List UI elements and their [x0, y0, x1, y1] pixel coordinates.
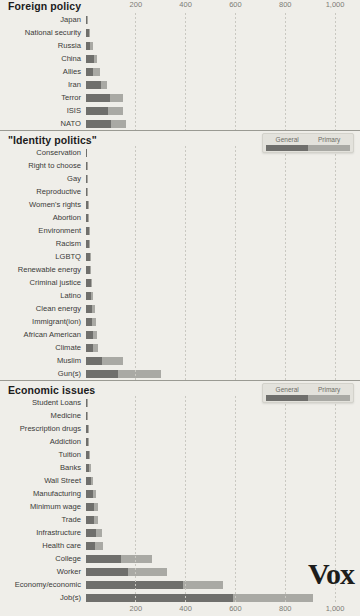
bar-category-label: Muslim	[0, 357, 86, 365]
stacked-bar[interactable]	[86, 490, 96, 498]
stacked-bar[interactable]	[86, 331, 97, 339]
chart-row: China	[0, 52, 360, 65]
stacked-bar[interactable]	[86, 318, 96, 326]
axis-bottom: 2004006008001,000	[86, 604, 360, 616]
bar-category-label: China	[0, 55, 86, 63]
bar-category-label: Latino	[0, 292, 86, 300]
stacked-bar[interactable]	[86, 266, 91, 274]
stacked-bar[interactable]	[86, 162, 87, 170]
stacked-bar[interactable]	[86, 81, 107, 89]
stacked-bar[interactable]	[86, 188, 88, 196]
bar-segment-primary	[94, 503, 98, 511]
stacked-bar[interactable]	[86, 451, 90, 459]
axis-top: 2004006008001,000	[86, 0, 360, 13]
bar-category-label: Economy/economic	[0, 581, 86, 589]
bar-category-label: Japan	[0, 16, 86, 24]
bar-category-label: Allies	[0, 68, 86, 76]
bar-segment-primary	[128, 568, 167, 576]
stacked-bar[interactable]	[86, 107, 123, 115]
legend-label-general: General	[276, 386, 299, 394]
bar-category-label: College	[0, 555, 86, 563]
chart-row: Women's rights	[0, 198, 360, 211]
stacked-bar[interactable]	[86, 503, 98, 511]
stacked-bar[interactable]	[86, 120, 126, 128]
stacked-bar[interactable]	[86, 214, 89, 222]
chart-row: Reproductive	[0, 185, 360, 198]
stacked-bar[interactable]	[86, 555, 152, 563]
bar-category-label: Banks	[0, 464, 86, 472]
bar-track	[86, 500, 360, 513]
stacked-bar[interactable]	[86, 68, 100, 76]
bar-category-label: Prescription drugs	[0, 425, 86, 433]
stacked-bar[interactable]	[86, 357, 123, 365]
chart-row: Environment	[0, 224, 360, 237]
bar-category-label: NATO	[0, 120, 86, 128]
bar-track	[86, 65, 360, 78]
stacked-bar[interactable]	[86, 477, 93, 485]
vox-logo: Vox	[308, 557, 354, 591]
chart-row: NATO	[0, 117, 360, 130]
stacked-bar[interactable]	[86, 542, 103, 550]
stacked-bar[interactable]	[86, 399, 87, 407]
stacked-bar[interactable]	[86, 412, 87, 420]
bar-segment-general	[86, 581, 183, 589]
bar-track	[86, 448, 360, 461]
section-economic-issues: Economic issues Student LoansMedicinePre…	[0, 381, 360, 604]
stacked-bar[interactable]	[86, 594, 313, 602]
bar-segment-general	[86, 542, 95, 550]
stacked-bar[interactable]	[86, 201, 89, 209]
plot-identity-politics: ConservationRight to chooseGayReproducti…	[0, 146, 360, 380]
bar-track	[86, 263, 360, 276]
bar-segment-primary	[91, 292, 93, 300]
stacked-bar[interactable]	[86, 438, 89, 446]
stacked-bar[interactable]	[86, 292, 93, 300]
bar-segment-primary	[92, 318, 95, 326]
stacked-bar[interactable]	[86, 42, 93, 50]
stacked-bar[interactable]	[86, 529, 102, 537]
bar-category-label: Trade	[0, 516, 86, 524]
bar-category-label: Terror	[0, 94, 86, 102]
bar-segment-general	[86, 516, 94, 524]
stacked-bar[interactable]	[86, 55, 97, 63]
bar-segment-primary	[183, 581, 223, 589]
stacked-bar[interactable]	[86, 425, 88, 433]
stacked-bar[interactable]	[86, 305, 95, 313]
stacked-bar[interactable]	[86, 227, 89, 235]
bar-track	[86, 78, 360, 91]
stacked-bar[interactable]	[86, 516, 98, 524]
legend-swatch-primary	[308, 395, 350, 401]
top-axis-panel: Foreign policy 2004006008001,000	[0, 0, 360, 13]
stacked-bar[interactable]	[86, 581, 223, 589]
chart-row: Medicine	[0, 409, 360, 422]
stacked-bar[interactable]	[86, 568, 167, 576]
bar-segment-primary	[111, 120, 126, 128]
bar-segment-primary	[108, 107, 123, 115]
bar-category-label: Health care	[0, 542, 86, 550]
chart-row: Gay	[0, 172, 360, 185]
chart-row: Health care	[0, 539, 360, 552]
bar-segment-general	[86, 107, 108, 115]
bar-segment-primary	[110, 94, 124, 102]
stacked-bar[interactable]	[86, 253, 91, 261]
stacked-bar[interactable]	[86, 279, 92, 287]
bar-track	[86, 328, 360, 341]
bar-track	[86, 341, 360, 354]
bar-category-label: Worker	[0, 568, 86, 576]
stacked-bar[interactable]	[86, 94, 123, 102]
bar-category-label: Climate	[0, 344, 86, 352]
stacked-bar[interactable]	[86, 175, 87, 183]
axis-tick-label: 800	[279, 604, 292, 613]
stacked-bar[interactable]	[86, 240, 90, 248]
bar-track	[86, 461, 360, 474]
stacked-bar[interactable]	[86, 16, 88, 24]
bar-segment-general	[86, 68, 93, 76]
bar-track	[86, 104, 360, 117]
bar-category-label: LGBTQ	[0, 253, 86, 261]
bar-track	[86, 539, 360, 552]
stacked-bar[interactable]	[86, 464, 91, 472]
bar-track	[86, 409, 360, 422]
stacked-bar[interactable]	[86, 370, 161, 378]
axis-tick-label: 600	[229, 0, 242, 9]
stacked-bar[interactable]	[86, 344, 98, 352]
stacked-bar[interactable]	[86, 29, 90, 37]
